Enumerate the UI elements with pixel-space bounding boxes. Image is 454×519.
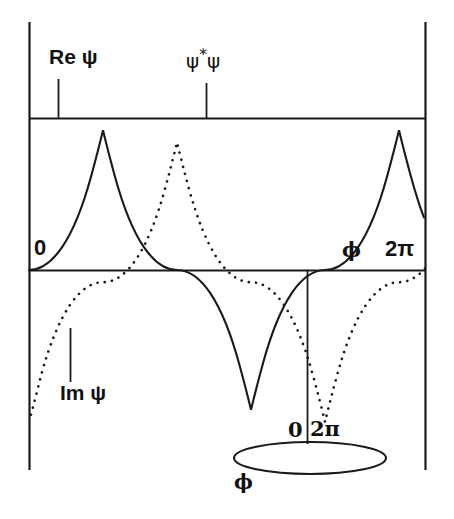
im-psi-label: Im ψ [60, 382, 106, 403]
ring-twopi-label: 2π [310, 418, 340, 439]
ring-zero-label: 0 [288, 419, 303, 440]
psi-star-psi-left-glyph: ψ [186, 49, 199, 73]
phi-ring-ellipse [234, 442, 386, 474]
psi-star-psi-label: ψ*ψ [186, 48, 220, 71]
re-psi-label: Re ψ [49, 46, 98, 67]
axis-phi-label: ϕ [342, 240, 361, 260]
wavefunction-ring-figure: Re ψ ψ*ψ Im ψ 0 ϕ 2π 0 2π ϕ [0, 0, 454, 519]
psi-star-psi-right-glyph: ψ [207, 49, 220, 73]
ring-phi-label: ϕ [234, 472, 253, 492]
axis-zero-label: 0 [34, 237, 46, 259]
psi-star-psi-star-glyph: * [199, 46, 207, 64]
axis-twopi-label: 2π [385, 238, 414, 260]
